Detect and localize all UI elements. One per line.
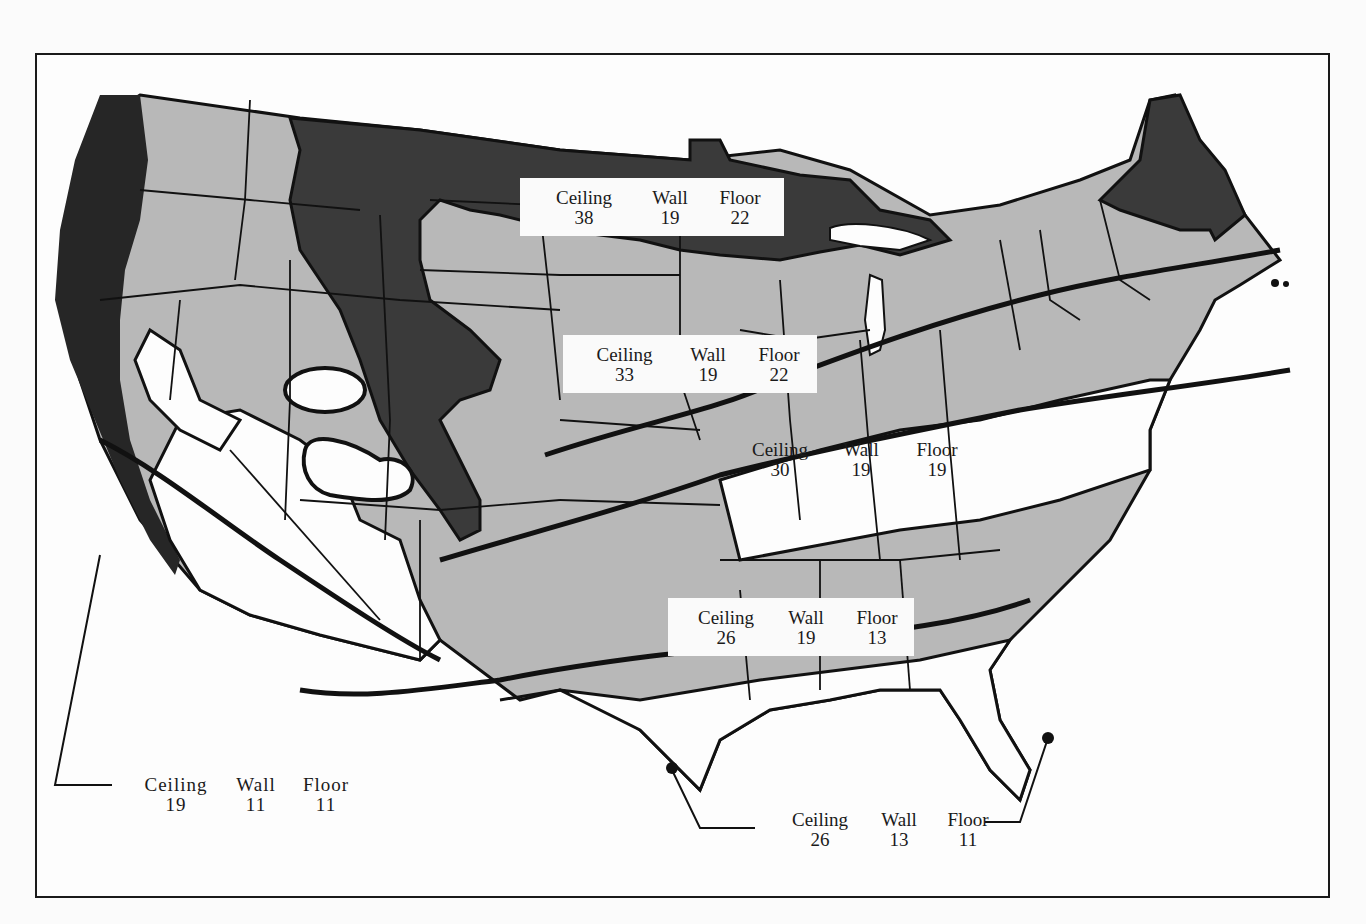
wall-value: 13 (890, 830, 909, 850)
floor-header: Floor (303, 775, 349, 795)
ceiling-header: Ceiling (145, 775, 208, 795)
floor-header: Floor (856, 608, 897, 628)
ceiling-value: 26 (717, 628, 736, 648)
zone-label-19-11-11: Ceiling19 Wall11 Floor11 (130, 775, 362, 815)
zone-label-38-19-22: Ceiling38 Wall19 Floor22 (520, 178, 784, 236)
ceiling-value: 30 (771, 460, 790, 480)
wall-value: 19 (797, 628, 816, 648)
ceiling-header: Ceiling (792, 810, 848, 830)
island-nantucket (1271, 279, 1279, 287)
wall-value: 19 (699, 365, 718, 385)
floor-value: 22 (731, 208, 750, 228)
zone-label-30-19-19: Ceiling30 Wall19 Floor19 (735, 440, 977, 480)
ceiling-header: Ceiling (556, 188, 612, 208)
ceiling-value: 26 (811, 830, 830, 850)
wall-header: Wall (690, 345, 725, 365)
floor-value: 19 (928, 460, 947, 480)
floor-header: Floor (758, 345, 799, 365)
wall-header: Wall (236, 775, 275, 795)
zone-label-33-19-22: Ceiling33 Wall19 Floor22 (563, 335, 817, 393)
wall-value: 11 (246, 795, 266, 815)
wall-header: Wall (843, 440, 878, 460)
floor-value: 11 (959, 830, 977, 850)
wall-value: 19 (852, 460, 871, 480)
zone-white-island-1 (285, 368, 365, 412)
wall-header: Wall (788, 608, 823, 628)
ceiling-header: Ceiling (597, 345, 653, 365)
marker-dot-gulf (666, 762, 678, 774)
zone-label-26-19-13: Ceiling26 Wall19 Floor13 (668, 598, 914, 656)
ceiling-header: Ceiling (698, 608, 754, 628)
floor-value: 22 (770, 365, 789, 385)
floor-header: Floor (947, 810, 988, 830)
ceiling-value: 38 (575, 208, 594, 228)
floor-header: Floor (916, 440, 957, 460)
zone-label-26-13-11: Ceiling26 Wall13 Floor11 (775, 810, 1003, 850)
floor-header: Floor (719, 188, 760, 208)
wall-value: 19 (661, 208, 680, 228)
island-marthas-vineyard (1283, 281, 1289, 287)
floor-value: 13 (868, 628, 887, 648)
ceiling-header: Ceiling (752, 440, 808, 460)
ceiling-value: 33 (615, 365, 634, 385)
wall-header: Wall (881, 810, 916, 830)
marker-dot-florida (1042, 732, 1054, 744)
wall-header: Wall (652, 188, 687, 208)
floor-value: 11 (316, 795, 336, 815)
ceiling-value: 19 (166, 795, 187, 815)
